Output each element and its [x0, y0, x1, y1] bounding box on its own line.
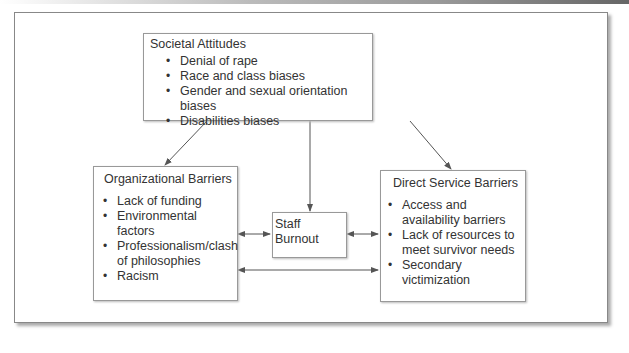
bullet-list: Lack of funding Environmental factors Pr…: [99, 194, 237, 284]
node-organizational-barriers: Organizational Barriers Lack of funding …: [93, 166, 238, 301]
list-item: Lack of funding: [99, 194, 237, 209]
list-item: Gender and sexual orientation biases: [162, 84, 372, 114]
list-item: Denial of rape: [162, 54, 372, 69]
list-item: Racism: [99, 269, 237, 284]
arrow-societal-to-direct: [410, 121, 451, 169]
bullet-list: Access and availability barriers Lack of…: [384, 198, 525, 288]
node-title: Societal Attitudes: [144, 34, 372, 52]
bullet-list: Denial of rape Race and class biases Gen…: [162, 54, 372, 129]
list-item: Access and availability barriers: [384, 198, 525, 228]
list-item: Secondary victimization: [384, 258, 525, 288]
node-staff-burnout: Staff Burnout: [272, 212, 347, 258]
node-societal-attitudes: Societal Attitudes Denial of rape Race a…: [143, 33, 373, 121]
list-item: Disabilities biases: [162, 114, 372, 129]
node-title: Direct Service Barriers: [381, 171, 525, 191]
node-title: Organizational Barriers: [94, 167, 237, 187]
list-item: Lack of resources to meet survivor needs: [384, 228, 525, 258]
node-title: Staff Burnout: [273, 213, 346, 247]
list-item: Professionalism/clash of philosophies: [99, 239, 237, 269]
list-item: Environmental factors: [99, 209, 237, 239]
node-direct-service-barriers: Direct Service Barriers Access and avail…: [380, 170, 526, 302]
list-item: Race and class biases: [162, 69, 372, 84]
